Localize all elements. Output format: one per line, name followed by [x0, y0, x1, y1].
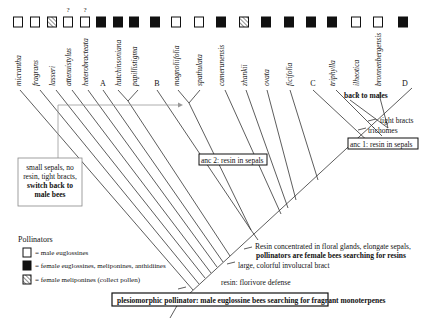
small-sepals-box: small sepals, no resin, tight bracts, sw… [18, 158, 82, 206]
pollinator-square-male [14, 17, 23, 27]
plesiomorphic-box: plesiomorphic pollinator: male euglossin… [112, 293, 386, 306]
resin-concentrated-label: Resin concentrated in floral glands, elo… [255, 242, 411, 251]
anc1-box: anc 1: resin in sepals [348, 138, 418, 149]
back-to-males-label: back to males [344, 91, 388, 100]
pollinator-square-hatched [48, 17, 57, 27]
trichomes-label: trichomes [368, 126, 398, 135]
legend-hatched-square-icon [23, 275, 31, 284]
pollinator-square-male [172, 17, 181, 27]
taxon-label: hutchinsoniana [114, 40, 123, 86]
taxon-label: ficifolia [285, 62, 294, 86]
taxon-label: camerunensis [217, 45, 226, 86]
pollinators-female-label: pollinators are female bees searching fo… [256, 251, 406, 260]
taxon-label: ilheotica [352, 60, 361, 86]
branch-hutchinsoniana [118, 90, 128, 101]
pollinator-square-female [217, 17, 226, 27]
pollinator-square-female [151, 17, 160, 27]
pollinator-square-male [81, 17, 90, 27]
backbone-branch [176, 88, 412, 306]
svg-text:resin, tight bracts,: resin, tight bracts, [23, 172, 77, 181]
taxon-label: spathulata [195, 54, 204, 86]
branch-ovata [267, 90, 296, 200]
phylogeny-diagram: ?? micranthafragranslasseriattenuistylus… [0, 0, 426, 326]
legend-open-square-icon [23, 248, 31, 257]
pollinator-square-male [195, 17, 204, 27]
clade-label: C [310, 79, 315, 88]
question-mark: ? [66, 6, 69, 14]
svg-text:small sepals, no: small sepals, no [26, 163, 74, 172]
legend-title: Pollinators [18, 235, 53, 244]
pollinator-square-female [285, 17, 294, 27]
branch-zhankii [246, 90, 288, 208]
pollinator-square-female [97, 17, 106, 27]
taxon-label: ovata [262, 69, 271, 86]
taxon-label: micrantha [14, 55, 23, 86]
svg-text:anc 2: resin in sepals: anc 2: resin in sepals [201, 156, 264, 165]
taxon-label: lasseri [48, 66, 57, 86]
tick-resin-defense [178, 287, 186, 289]
taxon-label: attenuistylus [64, 48, 73, 86]
taxon-label: bronnenbergensis [374, 33, 383, 86]
pollinator-square-female [307, 17, 316, 27]
svg-text:male bees: male bees [34, 190, 65, 199]
anc2-box: anc 2: resin in sepals [199, 154, 267, 165]
pollinator-square-male [374, 17, 383, 27]
taxon-labels: micranthafragranslasseriattenuistylushet… [14, 33, 409, 88]
clade-label: B [154, 79, 159, 88]
svg-text:switch back to: switch back to [27, 181, 73, 190]
question-mark: ? [83, 6, 86, 14]
clade-label: D [402, 79, 408, 88]
branch-ficifolia [290, 90, 318, 180]
branch-attenuistylus [72, 90, 211, 273]
tight-bracts-label: tight bracts [380, 116, 414, 125]
taxon-label: fragrans [31, 60, 40, 86]
tick-tight-bracts [368, 119, 376, 121]
pollinator-square-male [352, 17, 361, 27]
taxon-label: papillistigma [130, 46, 139, 87]
svg-text:= male euglossines: = male euglossines [35, 249, 89, 257]
taxon-label: magnoliifolia [172, 45, 181, 86]
pollinator-square-female [114, 17, 123, 27]
taxon-label: heterobracteata [81, 38, 90, 86]
branch-heterobracteata [88, 90, 217, 267]
taxon-label: triphylla [328, 60, 337, 86]
reversal-arrow [58, 103, 183, 159]
svg-text:= female euglossines, meliponi: = female euglossines, meliponines, anthi… [35, 262, 166, 270]
clade-label: A [100, 79, 106, 88]
branch-magn-spath-stem [189, 103, 251, 230]
pollinator-square-hatched [240, 17, 249, 27]
tick-resin-concentrated [244, 247, 252, 249]
taxon-label: zhankii [240, 64, 249, 87]
branch-papillistigma [128, 90, 138, 101]
branch-spathulata [189, 90, 200, 103]
pollinator-square-female [130, 17, 139, 27]
svg-text:anc 1: resin in sepals: anc 1: resin in sepals [350, 140, 413, 149]
tick-trichomes [358, 128, 366, 130]
tick-large-bract [227, 262, 235, 264]
legend-filled-square-icon [23, 261, 31, 270]
resin-defense-label: resin: florivore defense [221, 278, 291, 287]
large-bract-label: large, colorful involucral bract [238, 261, 330, 270]
branch-magnoliifolia [178, 90, 189, 103]
pollinator-state-row [14, 17, 408, 27]
uncertain-markers: ?? [66, 6, 86, 14]
pollinator-square-female [262, 17, 271, 27]
pollinator-square-male [64, 17, 73, 27]
svg-text:plesiomorphic pollinator: male: plesiomorphic pollinator: male euglossin… [117, 296, 386, 305]
svg-text:= female meliponines (collect: = female meliponines (collect pollen) [35, 276, 141, 284]
legend: Pollinators = male euglossines = female … [18, 235, 166, 284]
branch-clade-a [103, 90, 223, 262]
pollinator-square-female [328, 17, 337, 27]
pollinator-square-female [399, 17, 408, 27]
pollinator-square-male [31, 17, 40, 27]
